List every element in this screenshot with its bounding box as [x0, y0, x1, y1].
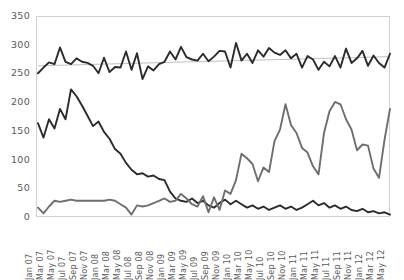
y-axis-tick-250: 250 — [11, 68, 30, 78]
y-axis-tick-150: 150 — [11, 126, 30, 136]
x-axis-tick-jul-11: Jul 11 — [323, 256, 331, 280]
x-axis-tick-mar-08: Mar 08 — [103, 251, 111, 280]
x-axis-tick-may-10: May 10 — [246, 250, 254, 280]
y-axis: 050100150200250300350 — [0, 0, 34, 240]
y-axis-tick-300: 300 — [11, 40, 30, 50]
x-axis-tick-may-07: May 07 — [48, 250, 56, 280]
x-axis-tick-nov-08: Nov 08 — [147, 250, 155, 280]
y-axis-tick-200: 200 — [11, 97, 30, 107]
x-axis-tick-sep-11: Sep 11 — [334, 251, 342, 280]
y-axis-tick-100: 100 — [11, 155, 30, 165]
y-axis-tick-350: 350 — [11, 11, 30, 21]
series-declining-dark-series — [38, 89, 390, 214]
x-axis-tick-mar-10: Mar 10 — [235, 251, 243, 280]
x-axis-tick-may-11: May 11 — [312, 250, 320, 280]
x-axis-tick-may-12: May 12 — [378, 250, 386, 280]
x-axis-tick-mar-09: Mar 09 — [169, 251, 177, 280]
series-lines — [37, 17, 391, 218]
x-axis-tick-nov-10: Nov 10 — [279, 250, 287, 280]
series-rising-gray-series — [38, 102, 390, 215]
chart-container: 050100150200250300350 Jan 07Mar 07May 07… — [0, 0, 404, 280]
x-axis-tick-jan-09: Jan 09 — [158, 254, 166, 280]
x-axis-tick-mar-12: Mar 12 — [367, 251, 375, 280]
x-axis: Jan 07Mar 07May 07Jul 07Sep 07Nov 07Jan … — [36, 219, 390, 280]
x-axis-tick-jan-12: Jan 12 — [356, 254, 364, 280]
x-axis-tick-sep-08: Sep 08 — [136, 251, 144, 280]
x-axis-tick-nov-09: Nov 09 — [213, 250, 221, 280]
x-axis-tick-jul-10: Jul 10 — [257, 256, 265, 280]
x-axis-tick-sep-09: Sep 09 — [202, 251, 210, 280]
x-axis-tick-sep-07: Sep 07 — [70, 251, 78, 280]
x-axis-tick-jul-07: Jul 07 — [59, 256, 67, 280]
x-axis-tick-mar-07: Mar 07 — [37, 251, 45, 280]
x-axis-tick-may-09: May 09 — [180, 250, 188, 280]
x-axis-tick-mar-11: Mar 11 — [301, 251, 309, 280]
x-axis-tick-may-08: May 08 — [114, 250, 122, 280]
x-axis-tick-nov-11: Nov 11 — [345, 250, 353, 280]
x-axis-tick-sep-10: Sep 10 — [268, 251, 276, 280]
x-axis-tick-jul-09: Jul 09 — [191, 256, 199, 280]
x-axis-tick-jul-08: Jul 08 — [125, 256, 133, 280]
y-axis-tick-50: 50 — [17, 183, 30, 193]
plot-area — [36, 16, 390, 217]
x-axis-tick-jan-11: Jan 11 — [290, 254, 298, 280]
y-axis-tick-0: 0 — [24, 212, 30, 222]
x-axis-tick-jan-07: Jan 07 — [26, 254, 34, 280]
x-axis-tick-jan-10: Jan 10 — [224, 254, 232, 280]
x-axis-tick-nov-07: Nov 07 — [81, 250, 89, 280]
x-axis-tick-jan-08: Jan 08 — [92, 254, 100, 280]
